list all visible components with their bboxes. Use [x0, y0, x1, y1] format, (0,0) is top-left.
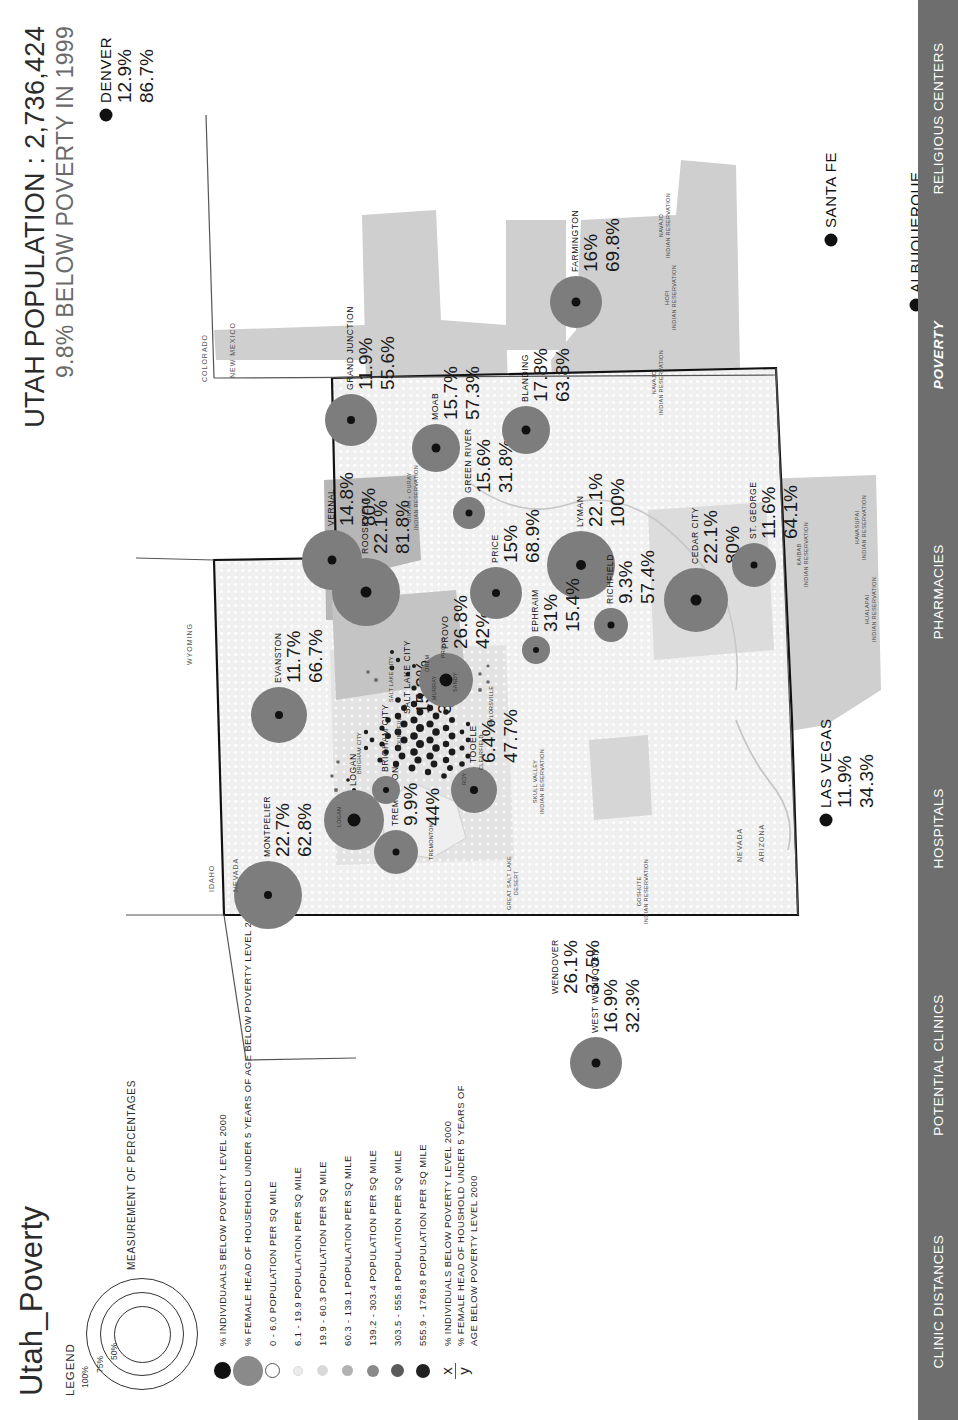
city-value2-montpelier: 62.8%	[294, 803, 316, 857]
city-label-grand-junction: GRAND JUNCTION	[345, 306, 355, 390]
city-core-vernal[interactable]	[328, 556, 337, 565]
city-label-richfield: RICHFIELD	[605, 554, 615, 604]
reservation-label: GOSHUTEINDIAN RESERVATION	[636, 859, 650, 924]
city-core-brigham-city[interactable]	[383, 787, 389, 793]
city-label-salt-lake-city: SALT LAKE CITY	[402, 640, 412, 714]
reservation-label: HUALAPAIINDIAN RESERVATION	[864, 577, 878, 642]
city-marker-santa-fe[interactable]	[825, 234, 838, 247]
city-label-las-vegas: LAS VEGAS	[817, 718, 834, 808]
tab-hospitals[interactable]: HOSPITALS	[931, 710, 946, 947]
city-value2-west-wendover: 32.3%	[622, 979, 644, 1033]
city-marker-denver[interactable]	[100, 109, 113, 122]
city-label-price: PRICE	[490, 534, 500, 563]
filled-circle-icon	[391, 1346, 404, 1396]
city-value1-moab: 15.7%	[440, 366, 462, 420]
town-label: BOUNTIFUL	[396, 717, 402, 750]
city-label-santa-fe: SANTA FE	[822, 152, 839, 228]
city-value1-wendover: 26.1%	[560, 940, 582, 994]
city-core-tooele[interactable]	[470, 786, 478, 794]
city-value2-evanston: 66.7%	[305, 629, 327, 683]
city-core-west-wendover[interactable]	[592, 1059, 601, 1068]
utah-poverty-map[interactable]: WEST WENDOVER16.9%32.3%WENDOVER26.1%37.5…	[36, 110, 906, 1120]
city-label-wendover: WENDOVER	[550, 939, 560, 994]
ratio-numerator-symbol: x	[438, 1367, 455, 1375]
city-label-evanston: EVANSTON	[273, 633, 283, 683]
reservation-label: GREAT SALT LAKEDESERT	[506, 856, 520, 910]
ratio-symbols: x y	[441, 1346, 470, 1396]
city-core-richfield[interactable]	[608, 622, 615, 629]
city-label-green-river: GREEN RIVER	[463, 428, 473, 493]
tab-clinic-distances[interactable]: CLINIC DISTANCES	[931, 1183, 946, 1420]
city-core-st-george[interactable]	[751, 562, 758, 569]
city-label-ephraim: EPHRAIM	[530, 589, 540, 632]
ring-label-75: 75%	[95, 1356, 105, 1373]
city-value2-moab: 57.3%	[462, 366, 484, 420]
tab-religious-centers[interactable]: RELIGIOUS CENTERS	[931, 0, 946, 237]
town-label: BRIGHAM CITY	[356, 732, 362, 774]
city-core-roosevelt[interactable]	[361, 587, 372, 598]
filled-black-circle-icon	[214, 1346, 231, 1396]
legend-row-label: 139.2 - 303.4 POPULATION PER SQ MILE	[367, 1150, 378, 1346]
filled-circle-icon	[317, 1346, 328, 1396]
city-value2-price: 68.9%	[522, 509, 544, 563]
city-value2-tooele: 47.7%	[500, 709, 522, 763]
city-value1-farmington: 16%	[580, 234, 602, 272]
city-core-green-river[interactable]	[466, 510, 473, 517]
city-core-farmington[interactable]	[572, 298, 581, 307]
ring-label-50: 50%	[109, 1343, 119, 1360]
city-core-logan[interactable]	[348, 814, 361, 827]
reservation-label: HOPIINDIAN RESERVATION	[664, 265, 678, 330]
tab-potential-clinics[interactable]: POTENTIAL CLINICS	[931, 947, 946, 1184]
tab-poverty[interactable]: POVERTY	[931, 237, 946, 474]
town-label: TREMONTON	[428, 823, 434, 860]
percentage-ring-key: 100% 75% 50% MEASUREMENT OF PERCENTAGES	[82, 1240, 200, 1390]
city-value1-vernal: 14.8%	[336, 472, 358, 526]
city-value2-las-vegas: 34.3%	[856, 754, 878, 808]
city-label-farmington: FARMINGTON	[570, 210, 580, 272]
geography-label: WYOMING	[186, 623, 193, 665]
city-label-moab: MOAB	[430, 393, 440, 420]
city-core-ephraim[interactable]	[533, 647, 539, 653]
ratio-denominator-symbol: y	[455, 1367, 472, 1375]
city-core-blanding[interactable]	[522, 426, 531, 435]
filled-circle-icon	[342, 1346, 353, 1396]
city-label-tooele: TOOELE	[468, 725, 478, 763]
section-tab-bar[interactable]: CLINIC DISTANCESPOTENTIAL CLINICSHOSPITA…	[918, 0, 958, 1420]
city-value1-tremonton: 9.9%	[400, 783, 422, 826]
reservation-label: SKULL VALLEYINDIAN RESERVATION	[532, 749, 546, 814]
city-core-cedar-city[interactable]	[691, 595, 702, 606]
city-value1-denver: 12.9%	[114, 49, 136, 103]
city-value1-provo: 26.8%	[450, 595, 472, 649]
city-label-brigham-city: BRIGHAM CITY	[380, 704, 390, 772]
city-value1-roosevelt: 22.1%	[370, 500, 392, 554]
city-value1-grand-junction: 11.9%	[355, 338, 377, 390]
legend-row-label: 555.9 - 1769.8 POPULATION PER SQ MILE	[417, 1144, 428, 1346]
legend-row-label: 0 - 6.0 POPULATION PER SQ MILE	[267, 1181, 278, 1346]
city-core-montpelier[interactable]	[264, 891, 272, 899]
filled-circle-icon	[293, 1346, 303, 1396]
filled-gray-circle-icon	[233, 1346, 263, 1396]
reservation-label: UINTAH + OURAYINDIAN RESERVATION	[406, 465, 420, 530]
legend-row-label: % INDIVIDUAALS BELOW POVERTY LEVEL 2000	[217, 1114, 228, 1346]
city-value2-farmington: 69.8%	[602, 218, 624, 272]
city-core-provo[interactable]	[440, 674, 453, 687]
city-core-lyman[interactable]	[576, 560, 586, 570]
city-value2-blanding: 63.8%	[552, 348, 574, 402]
tab-pharmacies[interactable]: PHARMACIES	[931, 473, 946, 710]
city-core-tremonton[interactable]	[393, 849, 400, 856]
city-value1-cedar-city: 22.1%	[700, 510, 722, 564]
geography-label: IDAHO	[208, 865, 215, 892]
poster-page: UTAH POPULATION : 2,736,424 9.8% BELOW P…	[0, 0, 958, 1420]
legend-row-label: 6.1 - 19.9 POPULATION PER SQ MILE	[292, 1167, 303, 1346]
city-value1-st-george: 11.6%	[758, 487, 780, 539]
city-marker-las-vegas[interactable]	[820, 814, 833, 827]
city-value1-evanston: 11.7%	[283, 631, 305, 683]
city-core-evanston[interactable]	[275, 711, 283, 719]
reservation-label: NAVAJOINDIAN RESERVATION	[658, 193, 672, 258]
city-label-lyman: LYMAN	[575, 496, 585, 527]
city-label-roosevelt: ROOSEVELT	[360, 498, 370, 554]
city-core-grand-junction[interactable]	[347, 416, 355, 424]
city-core-moab[interactable]	[432, 444, 441, 453]
city-value2-richfield: 57.4%	[637, 550, 659, 604]
city-core-price[interactable]	[492, 589, 500, 597]
